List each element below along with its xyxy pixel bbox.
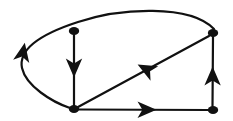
graph-node-n-bottom-right [208, 106, 218, 114]
graph-canvas [0, 0, 233, 121]
edges-layer [22, 11, 214, 110]
graph-node-n-top-middle [69, 27, 79, 35]
arrowheads-layer [13, 41, 221, 118]
graph-node-n-bottom-left [69, 105, 79, 113]
arrowhead-edge-topright-to-bottomleft-diagonal [134, 57, 158, 80]
graph-node-n-top-right [208, 29, 218, 37]
graph-edge-edge-topright-to-bottomleft-curve [22, 11, 214, 108]
directed-graph-figure [0, 0, 233, 121]
